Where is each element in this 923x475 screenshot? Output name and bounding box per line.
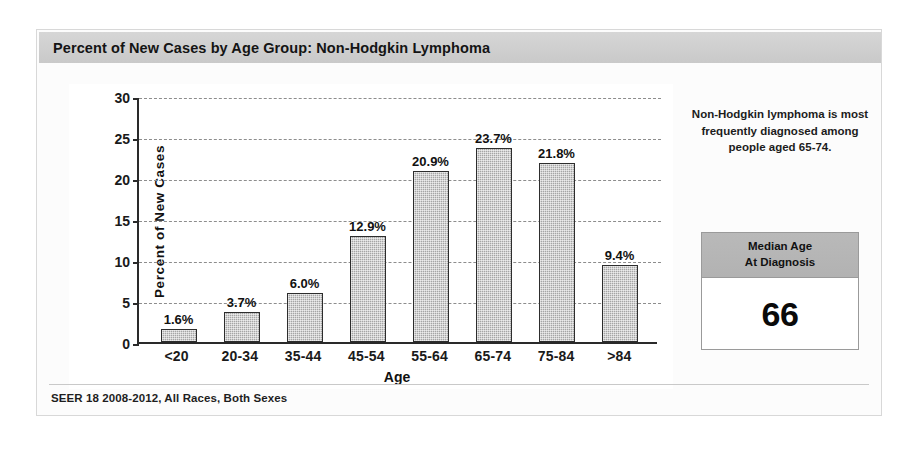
x-axis-tick-label: 65-74 xyxy=(461,348,524,364)
median-age-header-line1: Median Age xyxy=(748,239,812,255)
x-axis-title: Age xyxy=(137,369,657,385)
x-axis-tick-label: 75-84 xyxy=(525,348,588,364)
bar xyxy=(539,163,575,342)
median-age-value: 66 xyxy=(702,278,858,351)
x-axis-tick-label: 35-44 xyxy=(272,348,335,364)
y-axis-tick-label: 5 xyxy=(122,295,130,311)
x-axis-tick-label: 20-34 xyxy=(208,348,271,364)
x-axis-tick-label: 55-64 xyxy=(398,348,461,364)
side-panel: Non-Hodgkin lymphoma is most frequently … xyxy=(685,84,875,389)
y-axis-tick-label: 20 xyxy=(114,172,130,188)
y-axis-tick xyxy=(133,262,139,264)
y-axis-tick xyxy=(133,139,139,141)
bar-slot: 6.0% xyxy=(273,98,336,342)
bar-value-label: 6.0% xyxy=(290,276,320,291)
bar-value-label: 12.9% xyxy=(349,219,386,234)
chart-card: Percent of New Cases by Age Group: Non-H… xyxy=(36,29,882,416)
chart-panel: Percent of New Cases 051015202530 1.6%3.… xyxy=(69,84,673,389)
y-axis-tick xyxy=(133,221,139,223)
bar xyxy=(602,265,638,342)
y-axis-tick xyxy=(133,180,139,182)
median-age-box-header: Median Age At Diagnosis xyxy=(702,233,858,278)
y-axis-tick-label: 30 xyxy=(114,90,130,106)
y-axis-tick xyxy=(133,98,139,100)
x-axis-tick-label: 45-54 xyxy=(335,348,398,364)
bar-slot: 23.7% xyxy=(462,98,525,342)
bars-group: 1.6%3.7%6.0%12.9%20.9%23.7%21.8%9.4% xyxy=(141,98,657,342)
plot-area: 051015202530 1.6%3.7%6.0%12.9%20.9%23.7%… xyxy=(137,98,657,344)
bar xyxy=(413,171,449,342)
bar-slot: 3.7% xyxy=(210,98,273,342)
median-age-header-line2: At Diagnosis xyxy=(745,255,815,271)
bar-value-label: 23.7% xyxy=(475,131,512,146)
side-note-text: Non-Hodgkin lymphoma is most frequently … xyxy=(685,84,875,156)
y-axis-tick-label: 10 xyxy=(114,254,130,270)
bar-slot: 1.6% xyxy=(147,98,210,342)
x-axis-tick-labels: <2020-3435-4445-5455-6465-7475-84>84 xyxy=(139,348,657,364)
x-axis-tick-label: <20 xyxy=(145,348,208,364)
x-axis-tick-label: >84 xyxy=(588,348,651,364)
bar-value-label: 9.4% xyxy=(605,248,635,263)
y-axis-tick xyxy=(133,344,139,346)
bar xyxy=(224,312,260,342)
bar xyxy=(476,148,512,342)
bar-slot: 9.4% xyxy=(588,98,651,342)
bar-value-label: 1.6% xyxy=(164,312,194,327)
bar-slot: 12.9% xyxy=(336,98,399,342)
source-footnote: SEER 18 2008-2012, All Races, Both Sexes xyxy=(51,392,287,404)
bar xyxy=(350,236,386,342)
bar-slot: 20.9% xyxy=(399,98,462,342)
y-axis-tick-label: 25 xyxy=(114,131,130,147)
bar xyxy=(161,329,197,342)
median-age-box: Median Age At Diagnosis 66 xyxy=(701,232,859,350)
screenshot-root: Percent of New Cases by Age Group: Non-H… xyxy=(0,0,923,475)
y-axis-tick-label: 15 xyxy=(114,213,130,229)
bar-value-label: 21.8% xyxy=(538,146,575,161)
y-axis-tick xyxy=(133,303,139,305)
bar-value-label: 3.7% xyxy=(227,295,257,310)
bar xyxy=(287,293,323,342)
y-axis-tick-label: 0 xyxy=(122,336,130,352)
card-title-bar: Percent of New Cases by Age Group: Non-H… xyxy=(39,32,881,63)
page-title: Percent of New Cases by Age Group: Non-H… xyxy=(39,40,490,56)
footer-divider xyxy=(49,384,869,385)
bar-slot: 21.8% xyxy=(525,98,588,342)
bar-value-label: 20.9% xyxy=(412,154,449,169)
